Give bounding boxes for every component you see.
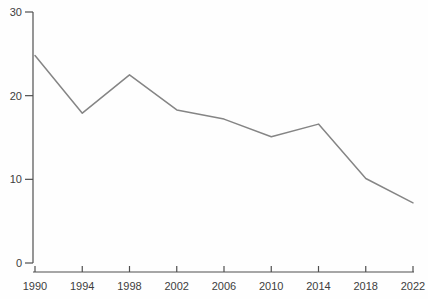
- x-tick-label: 2014: [306, 280, 330, 292]
- x-tick-label: 2022: [401, 280, 425, 292]
- chart-screen: 0102030199019941998200220062010201420182…: [0, 0, 428, 299]
- x-tick-label: 1998: [117, 280, 141, 292]
- x-tick-label: 2006: [212, 280, 236, 292]
- y-tick-label: 0: [16, 257, 22, 269]
- y-tick-label: 10: [10, 173, 22, 185]
- y-tick-label: 30: [10, 6, 22, 18]
- x-tick-label: 1994: [70, 280, 94, 292]
- x-tick-label: 2002: [165, 280, 189, 292]
- y-tick-label: 20: [10, 90, 22, 102]
- data-series-line: [35, 56, 413, 203]
- x-tick-label: 2010: [259, 280, 283, 292]
- line-chart-canvas: 0102030199019941998200220062010201420182…: [0, 0, 428, 299]
- x-tick-label: 1990: [23, 280, 47, 292]
- x-tick-label: 2018: [354, 280, 378, 292]
